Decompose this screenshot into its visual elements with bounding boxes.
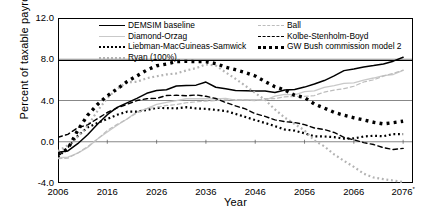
- x-axis-title: Year: [58, 196, 413, 208]
- y-tick-label: 4.0: [24, 96, 54, 106]
- legend-swatch-icon: [258, 21, 284, 30]
- series-line: [58, 61, 403, 154]
- legend-item: Liebman-MacGuineas-Samwick: [99, 41, 246, 51]
- legend-swatch-icon: [258, 42, 284, 51]
- chart-figure: Percent of taxable payrolls 12.08.04.00.…: [0, 0, 433, 214]
- series-line: [58, 95, 403, 150]
- legend-item: Diamond-Orzag: [99, 31, 246, 41]
- chart-legend: DEMSIM baselineDiamond-OrzagLiebman-MacG…: [58, 18, 413, 61]
- series-line: [58, 64, 403, 182]
- legend-swatch-icon: [99, 42, 125, 51]
- y-tick-label: 8.0: [24, 54, 54, 64]
- legend-item-label: Diamond-Orzag: [128, 31, 187, 41]
- legend-item-label: Ryan (100%): [128, 52, 177, 62]
- legend-swatch-icon: [258, 31, 284, 40]
- legend-item: Ball: [258, 20, 402, 30]
- legend-item-label: Ball: [287, 20, 301, 30]
- legend-swatch-icon: [99, 31, 125, 40]
- legend-column-right: BallKolbe-Stenholm-BoydGW Bush commissio…: [258, 20, 402, 52]
- series-line: [58, 70, 403, 157]
- legend-item: Ryan (100%): [99, 52, 246, 62]
- legend-item-label: Liebman-MacGuineas-Samwick: [128, 41, 246, 51]
- x-tick-footnote-marker: *: [413, 186, 415, 192]
- legend-swatch-icon: [99, 21, 125, 30]
- legend-swatch-icon: [99, 52, 125, 61]
- series-line: [58, 107, 403, 157]
- y-tick-label: 0.0: [24, 137, 54, 147]
- y-tick-label: 12.0: [24, 13, 54, 23]
- legend-item: Kolbe-Stenholm-Boyd: [258, 31, 402, 41]
- legend-item-label: Kolbe-Stenholm-Boyd: [287, 31, 368, 41]
- legend-item: GW Bush commission model 2: [258, 41, 402, 51]
- legend-item-label: GW Bush commission model 2: [287, 41, 402, 51]
- legend-column-left: DEMSIM baselineDiamond-OrzagLiebman-MacG…: [99, 20, 246, 62]
- legend-item: DEMSIM baseline: [99, 20, 246, 30]
- y-axis-tick-labels: 12.08.04.00.0-4.0: [22, 0, 54, 214]
- legend-item-label: DEMSIM baseline: [128, 20, 195, 30]
